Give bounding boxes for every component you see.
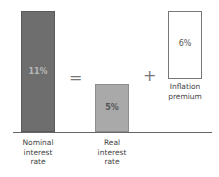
caption-line: Nominal — [8, 138, 68, 148]
inflation-value-label: 6% — [169, 39, 201, 48]
real-caption: Real interest rate — [82, 138, 142, 167]
caption-line: interest — [82, 148, 142, 158]
real-value-label: 5% — [96, 103, 128, 112]
inflation-premium-bar: 6% — [168, 11, 202, 79]
real-interest-rate-bar: 5% — [95, 84, 129, 132]
caption-line: Inflation — [155, 82, 215, 92]
nominal-caption: Nominal interest rate — [8, 138, 68, 167]
caption-line: premium — [155, 92, 215, 102]
caption-line: rate — [82, 157, 142, 167]
nominal-interest-rate-bar: 11% — [21, 11, 55, 132]
caption-line: interest — [8, 148, 68, 158]
equals-sign: = — [69, 70, 82, 86]
nominal-value-label: 11% — [22, 67, 54, 76]
baseline-axis — [13, 132, 212, 133]
caption-line: Real — [82, 138, 142, 148]
caption-line: rate — [8, 157, 68, 167]
inflation-caption: Inflation premium — [155, 82, 215, 101]
